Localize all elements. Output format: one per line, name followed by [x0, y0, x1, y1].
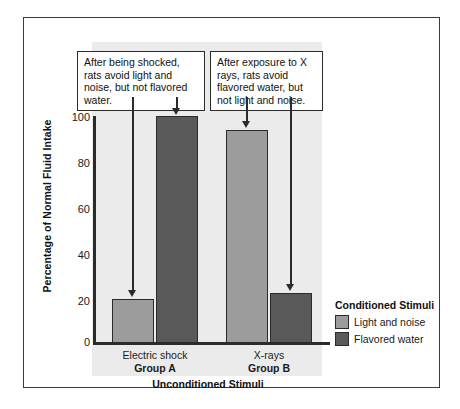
bar-group-a-flavored-water [156, 116, 198, 343]
x-group-stimulus-a: Electric shock [123, 349, 188, 361]
arrow-head-a-light-icon [128, 290, 136, 297]
arrow-line-b-light [246, 97, 248, 122]
x-group-label-b: X-rays Group B [210, 349, 328, 375]
legend-item-flavored-water: Flavored water [335, 332, 435, 346]
x-axis-title: Unconditioned Stimuli [92, 378, 324, 390]
legend-item-light-and-noise: Light and noise [335, 315, 435, 329]
y-axis-title: Percentage of Normal Fluid Intake [41, 111, 53, 301]
y-tick-20: 20 [64, 296, 90, 307]
y-tick-60: 60 [64, 204, 90, 215]
legend-label-flavored-water: Flavored water [354, 333, 423, 345]
callout-group-a: After being shocked, rats avoid light an… [77, 51, 205, 111]
x-group-name-b: Group B [210, 362, 328, 375]
legend: Conditioned Stimuli Light and noise Flav… [335, 299, 435, 349]
arrow-head-b-dark-icon [286, 284, 294, 291]
legend-title: Conditioned Stimuli [335, 299, 435, 311]
bar-group-a-light-and-noise [112, 299, 154, 343]
arrow-head-a-dark-icon [172, 108, 180, 115]
legend-label-light-and-noise: Light and noise [354, 316, 425, 328]
legend-swatch-light-and-noise [335, 315, 349, 329]
arrow-line-a-light [132, 97, 134, 291]
y-axis-line [93, 116, 96, 345]
y-tick-40: 40 [64, 250, 90, 261]
legend-swatch-flavored-water [335, 332, 349, 346]
y-tick-0: 0 [64, 337, 90, 348]
callout-group-b: After exposure to X rays, rats avoid fla… [210, 51, 323, 111]
x-group-name-a: Group A [96, 362, 214, 375]
figure-frame: Percentage of Normal Fluid Intake 100 80… [23, 17, 440, 388]
bar-group-b-flavored-water [270, 293, 312, 343]
y-tick-80: 80 [64, 158, 90, 169]
y-tick-100: 100 [64, 112, 90, 123]
arrow-head-b-light-icon [242, 121, 250, 128]
x-group-stimulus-b: X-rays [254, 349, 284, 361]
arrow-line-b-dark [290, 97, 292, 285]
bar-group-b-light-and-noise [226, 130, 268, 343]
x-group-label-a: Electric shock Group A [96, 349, 214, 375]
